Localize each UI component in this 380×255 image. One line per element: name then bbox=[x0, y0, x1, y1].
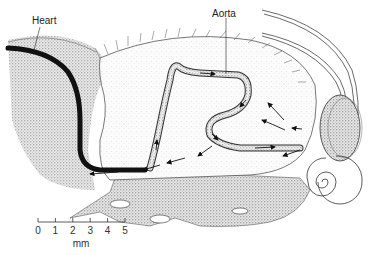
compound-eye bbox=[320, 95, 362, 161]
heart-label: Heart bbox=[32, 15, 56, 26]
scale-tick-4: 4 bbox=[105, 225, 111, 236]
insect-head-circulation-diagram bbox=[0, 0, 380, 255]
aorta-label: Aorta bbox=[212, 8, 236, 19]
scale-tick-2: 2 bbox=[70, 225, 76, 236]
scale-tick-0: 0 bbox=[35, 225, 41, 236]
scale-tick-5: 5 bbox=[122, 225, 128, 236]
scale-tick-1: 1 bbox=[53, 225, 59, 236]
ventral-region bbox=[70, 175, 310, 227]
scale-tick-3: 3 bbox=[87, 225, 93, 236]
coiled-proboscis bbox=[307, 156, 362, 204]
scale-bar bbox=[38, 218, 125, 222]
scale-unit: mm bbox=[73, 238, 90, 249]
head-capsule bbox=[95, 28, 316, 180]
